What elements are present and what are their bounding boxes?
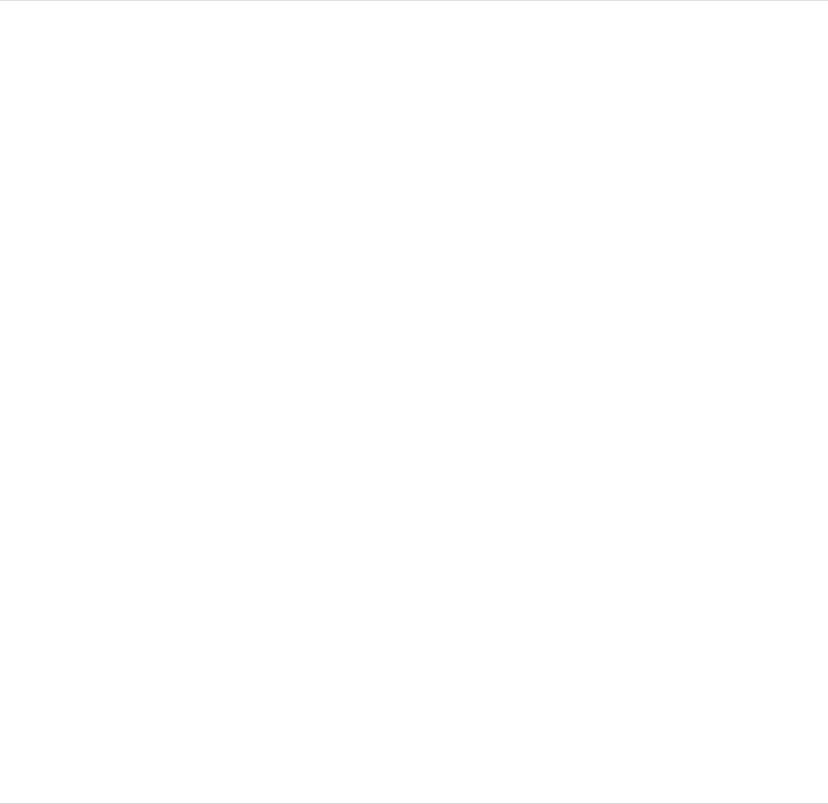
scatter-plot-figure	[0, 0, 828, 804]
page-edge-top	[0, 0, 828, 1]
